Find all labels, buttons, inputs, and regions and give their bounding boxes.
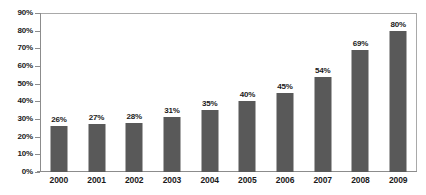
y-axis-tick-label: 40%	[0, 97, 33, 105]
bar-value-label: 35%	[202, 99, 217, 108]
y-axis-tick-label: 0%	[0, 168, 33, 176]
y-axis-tick-label: 30%	[0, 115, 33, 123]
bar-value-label: 54%	[315, 66, 330, 75]
bar-group: 54%	[304, 13, 342, 172]
x-axis-category-label: 2003	[163, 175, 182, 185]
bar	[201, 110, 218, 172]
y-axis-tick-label: 20%	[0, 133, 33, 141]
y-axis-tick-label-text: 0%	[1, 168, 33, 176]
x-axis-category-label: 2006	[276, 175, 295, 185]
bar-chart: 0%10%20%30%40%50%60%70%80%90% 26%27%28%3…	[0, 0, 426, 195]
y-axis-tick-label: 70%	[0, 44, 33, 52]
x-axis-category-label: 2001	[87, 175, 106, 185]
y-axis-tick-label-text: 60%	[1, 62, 33, 70]
x-axis-category-label: 2000	[50, 175, 69, 185]
bar	[88, 124, 105, 172]
bar-group: 31%	[153, 13, 191, 172]
bar	[390, 31, 407, 172]
bar-group: 40%	[229, 13, 267, 172]
bar-value-label: 69%	[353, 39, 368, 48]
bar-value-label: 26%	[51, 115, 66, 124]
bar-group: 27%	[78, 13, 116, 172]
bar	[314, 77, 331, 172]
y-axis-tick-label: 10%	[0, 150, 33, 158]
bar-value-label: 27%	[89, 113, 104, 122]
x-axis-category-label: 2004	[200, 175, 219, 185]
bar-value-label: 31%	[164, 106, 179, 115]
x-axis-category-label: 2008	[351, 175, 370, 185]
bar-value-label: 40%	[240, 90, 255, 99]
x-axis-category-label: 2007	[313, 175, 332, 185]
y-axis-tick-label-text: 50%	[1, 80, 33, 88]
y-axis-tick-label-text: 20%	[1, 133, 33, 141]
x-axis-labels: 2000200120022003200420052006200720082009	[40, 175, 417, 189]
bar-group: 69%	[342, 13, 380, 172]
y-axis-tick	[35, 172, 40, 173]
bar	[50, 126, 67, 172]
y-axis-tick-label-text: 80%	[1, 27, 33, 35]
y-axis-tick-label: 80%	[0, 27, 33, 35]
bar	[163, 117, 180, 172]
y-axis-tick-label: 60%	[0, 62, 33, 70]
y-axis-tick-label-text: 10%	[1, 150, 33, 158]
bar-value-label: 45%	[277, 82, 292, 91]
bar	[239, 101, 256, 172]
x-axis-category-label: 2002	[125, 175, 144, 185]
bar-group: 26%	[40, 13, 78, 172]
bar-value-label: 80%	[390, 20, 405, 29]
y-axis-tick-label-text: 70%	[1, 44, 33, 52]
x-axis-category-label: 2009	[389, 175, 408, 185]
y-axis-tick-label: 90%	[0, 9, 33, 17]
bar	[277, 93, 294, 173]
y-axis-tick-label-text: 40%	[1, 97, 33, 105]
x-axis-category-label: 2005	[238, 175, 257, 185]
bar-group: 28%	[115, 13, 153, 172]
bar	[126, 123, 143, 172]
bar-group: 45%	[266, 13, 304, 172]
bar-group: 80%	[379, 13, 417, 172]
y-axis-tick-label-text: 30%	[1, 115, 33, 123]
bars-layer: 26%27%28%31%35%40%45%54%69%80%	[40, 13, 417, 172]
y-axis-tick-label: 50%	[0, 80, 33, 88]
bar	[352, 50, 369, 172]
bar-value-label: 28%	[127, 112, 142, 121]
y-axis-tick-label-text: 90%	[1, 9, 33, 17]
bar-group: 35%	[191, 13, 229, 172]
